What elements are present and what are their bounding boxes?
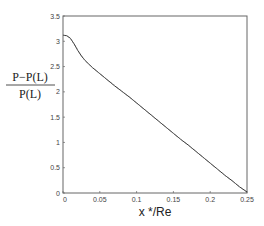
y-tick-label: 1.5 — [50, 114, 60, 121]
x-tick-label: 0.15 — [167, 196, 181, 203]
y-axis-label-numerator: P−P(L) — [12, 70, 47, 84]
solid-curve — [63, 35, 247, 192]
y-tick-label: 2.5 — [50, 63, 60, 70]
x-tick-label: 0.1 — [132, 196, 142, 203]
dashed-curve — [63, 35, 247, 192]
x-tick-label: 0.25 — [240, 196, 254, 203]
y-axis-label-denominator: P(L) — [19, 87, 41, 101]
y-tick-label: 2 — [56, 88, 60, 95]
y-tick-label: 1 — [56, 139, 60, 146]
y-tick-label: 0 — [56, 190, 60, 197]
y-tick-label: 3.5 — [50, 13, 60, 20]
line-chart: 00.050.10.150.20.25 00.511.522.533.5 x *… — [0, 0, 264, 226]
y-tick-label: 0.5 — [50, 164, 60, 171]
x-tick-label: 0 — [63, 196, 67, 203]
x-tick-label: 0.05 — [93, 196, 107, 203]
x-axis-label: x */Re — [139, 205, 172, 219]
plot-frame — [63, 16, 247, 193]
x-tick-label: 0.2 — [205, 196, 215, 203]
y-tick-label: 3 — [56, 38, 60, 45]
y-axis-label: P−P(L) P(L) — [6, 70, 55, 101]
